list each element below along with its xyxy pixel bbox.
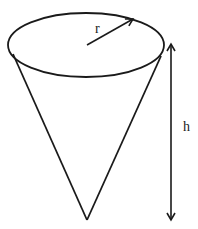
- height-label: h: [183, 119, 190, 134]
- cone-base-ellipse: [8, 13, 164, 77]
- cone-diagram: r h: [0, 0, 198, 229]
- radius-arrow: [87, 19, 133, 45]
- radius-label: r: [95, 21, 100, 36]
- cone-left-side: [13, 54, 87, 220]
- cone-right-side: [87, 56, 161, 220]
